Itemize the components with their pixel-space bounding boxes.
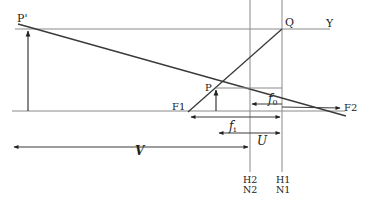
label-f0: f0	[267, 92, 278, 107]
label-n2: N2	[243, 184, 257, 195]
label-f2: F2	[344, 102, 357, 113]
label-f1: F1	[172, 101, 185, 112]
label-p: P	[205, 82, 212, 93]
label-q: Q	[285, 16, 294, 29]
ray-to-f2	[282, 107, 340, 108]
label-u: U	[257, 134, 268, 148]
label-v: V	[135, 144, 146, 158]
label-fi: fi	[228, 119, 236, 134]
label-y: Y	[325, 17, 334, 30]
optics-diagram: P' Q Y P F1 F2 f0 fi U V H2 N2 H1 N1	[0, 0, 388, 205]
label-n1: N1	[276, 184, 290, 195]
label-p-prime: P'	[17, 12, 27, 25]
